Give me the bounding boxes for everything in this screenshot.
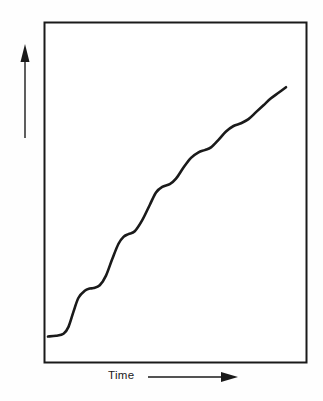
growth-curve-figure: Log number of viable cel s Time <box>0 0 323 401</box>
up-arrow-icon <box>21 44 30 62</box>
plot-frame <box>45 23 307 363</box>
x-axis-label: Time <box>108 369 134 381</box>
right-arrow-icon <box>221 372 238 382</box>
plot-canvas <box>0 0 323 401</box>
